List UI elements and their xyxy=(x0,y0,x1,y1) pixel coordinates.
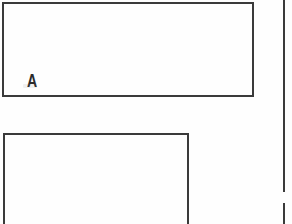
figure-panel-c-border-upper xyxy=(283,0,285,192)
scan-artifact xyxy=(23,84,37,88)
figure-panel-b: B xyxy=(3,133,189,224)
figure-canvas: A B xyxy=(0,0,292,224)
figure-panel-c-border-lower xyxy=(283,203,285,224)
figure-panel-a: A xyxy=(2,2,254,97)
